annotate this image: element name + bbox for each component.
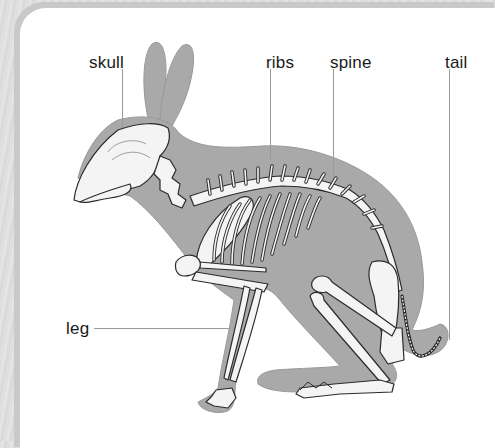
label-ribs: ribs: [266, 54, 294, 71]
label-skull: skull: [89, 54, 124, 71]
label-spine: spine: [330, 54, 372, 71]
label-leg: leg: [66, 320, 89, 337]
label-tail: tail: [445, 54, 468, 71]
